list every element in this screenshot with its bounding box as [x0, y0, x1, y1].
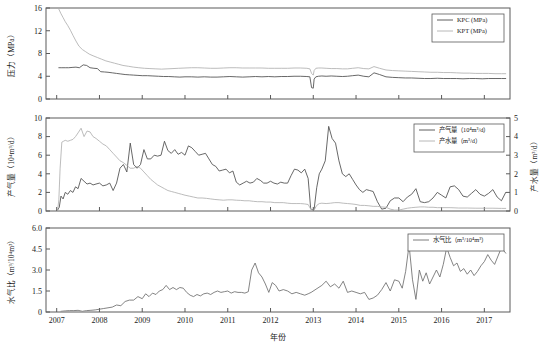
x-tick-label: 2010	[177, 316, 193, 325]
y-axis-title: 产气量（10⁴m³/d）	[6, 132, 16, 196]
y-tick-label: 1.5	[32, 287, 42, 296]
x-tick-label: 2007	[49, 316, 65, 325]
x-axis-title: 年份	[270, 332, 286, 342]
y-tick-label: 16	[34, 4, 42, 13]
y-axis-title: 压力（MPa）	[6, 30, 16, 76]
y2-axis-title: 产水量（m³/d）	[529, 137, 539, 191]
y-tick-label: 12	[34, 27, 42, 36]
y-tick-label: 4	[38, 170, 42, 179]
y-tick-label: 3.0	[32, 266, 42, 275]
y-tick-label: 0	[38, 95, 42, 104]
y2-tick-label: 0	[514, 207, 518, 216]
x-tick-label: 2015	[391, 316, 407, 325]
legend-label: 水气比（m³/10⁴m³）	[433, 235, 487, 244]
y-tick-label: 6	[38, 151, 42, 160]
x-tick-label: 2017	[476, 316, 492, 325]
y-axis-title: 水气比（m³/10⁴m³）	[6, 236, 16, 305]
legend-label: 产水量（m³/d）	[439, 136, 481, 145]
y-tick-label: 2	[38, 188, 42, 197]
y-tick-label: 8	[38, 49, 42, 58]
y-tick-label: 4.5	[32, 245, 42, 254]
x-tick-label: 2014	[348, 316, 364, 325]
x-tick-label: 2016	[434, 316, 450, 325]
x-tick-label: 2013	[305, 316, 321, 325]
x-tick-label: 2009	[134, 316, 150, 325]
y2-tick-label: 5	[514, 114, 518, 123]
y-tick-label: 10	[34, 114, 42, 123]
x-tick-label: 2008	[91, 316, 107, 325]
y-tick-label: 0	[38, 207, 42, 216]
y-tick-label: 4	[38, 72, 42, 81]
y-tick-label: 0	[38, 308, 42, 317]
x-tick-label: 2012	[263, 316, 279, 325]
y-tick-label: 6.0	[32, 224, 42, 233]
chart-canvas: 0481216压力（MPa）KPC (MPa)KPT (MPa)02468100…	[0, 0, 548, 354]
y2-tick-label: 2	[514, 170, 518, 179]
legend-label: KPC (MPa)	[457, 16, 487, 24]
y2-tick-label: 4	[514, 132, 518, 141]
y2-tick-label: 1	[514, 188, 518, 197]
y-tick-label: 8	[38, 132, 42, 141]
figure-root: 0481216压力（MPa）KPC (MPa)KPT (MPa)02468100…	[0, 0, 548, 354]
y2-tick-label: 3	[514, 151, 518, 160]
legend-label: 产气量（10⁴m³/d）	[439, 125, 489, 134]
legend-label: KPT (MPa)	[457, 27, 487, 35]
x-tick-label: 2011	[220, 316, 236, 325]
